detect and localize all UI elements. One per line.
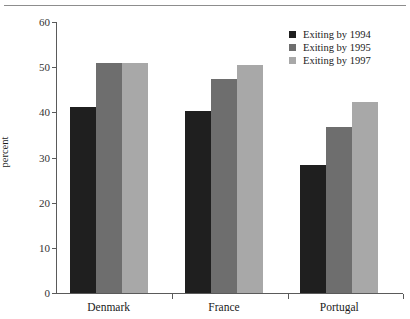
x-tick-mark	[403, 294, 404, 299]
bar	[122, 63, 148, 293]
y-tick: 60	[57, 22, 58, 23]
bar	[96, 63, 122, 293]
y-tick-label: 30	[39, 152, 50, 164]
y-tick: 30	[57, 158, 58, 159]
legend-swatch-icon	[289, 57, 296, 64]
y-tick-label: 0	[45, 287, 51, 299]
y-tick-mark	[52, 203, 57, 204]
legend-label: Exiting by 1994	[303, 29, 371, 40]
legend-item: Exiting by 1997	[289, 54, 371, 67]
y-tick-label: 60	[39, 16, 50, 28]
legend-item: Exiting by 1995	[289, 41, 371, 54]
y-tick-mark	[52, 248, 57, 249]
bar	[70, 107, 96, 293]
y-tick-mark	[52, 112, 57, 113]
y-tick: 0	[57, 293, 58, 294]
legend-label: Exiting by 1995	[303, 42, 371, 53]
bar	[300, 165, 326, 293]
y-axis-label: percent	[0, 137, 10, 168]
y-tick: 40	[57, 112, 58, 113]
category-label-portugal: Portugal	[320, 301, 359, 313]
category-label-france: France	[208, 301, 239, 313]
y-tick-mark	[52, 22, 57, 23]
legend-label: Exiting by 1997	[303, 55, 371, 66]
x-tick-mark	[288, 294, 289, 299]
x-axis-line	[56, 293, 403, 294]
y-tick-mark	[52, 293, 57, 294]
bar	[237, 65, 263, 293]
y-tick: 50	[57, 67, 58, 68]
bar	[185, 111, 211, 293]
y-tick-mark	[52, 67, 57, 68]
legend-swatch-icon	[289, 31, 296, 38]
y-tick: 20	[57, 203, 58, 204]
chart-legend: Exiting by 1994Exiting by 1995Exiting by…	[289, 28, 371, 67]
legend-swatch-icon	[289, 44, 296, 51]
bar	[326, 127, 352, 293]
bar	[211, 79, 237, 293]
top-divider-rule	[4, 5, 406, 6]
bar	[352, 102, 378, 293]
bar-chart-figure: percent 0102030405060 DenmarkFrancePortu…	[0, 0, 410, 319]
y-tick-label: 10	[39, 242, 50, 254]
y-tick-label: 40	[39, 106, 50, 118]
y-tick-mark	[52, 158, 57, 159]
x-tick-mark	[172, 294, 173, 299]
category-label-denmark: Denmark	[87, 301, 130, 313]
y-tick-label: 50	[39, 61, 50, 73]
legend-item: Exiting by 1994	[289, 28, 371, 41]
y-tick-label: 20	[39, 197, 50, 209]
y-tick: 10	[57, 248, 58, 249]
